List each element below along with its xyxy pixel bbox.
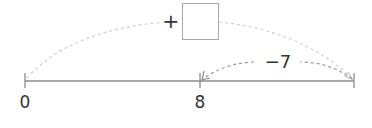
jump-arc-minus-left: [203, 62, 254, 79]
plus-operator: +: [163, 11, 180, 31]
minus-seven-label: −7: [265, 53, 292, 71]
tick-label-0: 0: [20, 94, 31, 111]
jump-arc-plus-left: [27, 22, 165, 78]
jump-arc-minus-right: [300, 62, 352, 79]
answer-blank-box[interactable]: [182, 3, 219, 40]
tick-label-8: 8: [195, 94, 206, 111]
